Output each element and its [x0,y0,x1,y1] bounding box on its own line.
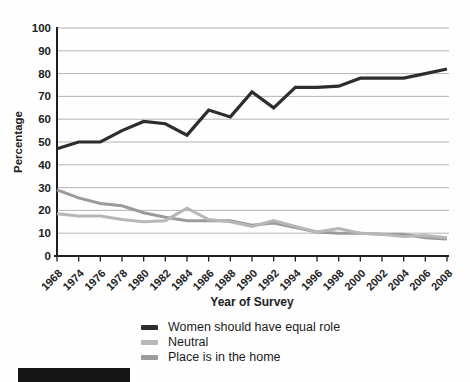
legend-item-home: Place is in the home [141,351,340,364]
series-line-women-should-have-equal-role [57,69,447,149]
y-tick-label-20: 20 [38,204,51,216]
line-chart: 1968197419761978198019821984198619881990… [0,0,470,318]
y-tick-label-90: 90 [38,45,51,57]
x-tick-label-2002: 2002 [364,267,390,293]
x-tick-label-2004: 2004 [385,266,411,292]
x-tick-label-1986: 1986 [190,267,216,293]
y-axis-title: Percentage [12,111,24,173]
y-tick-label-100: 100 [32,22,51,34]
legend-item-equal-role: Women should have equal role [141,321,340,334]
x-tick-label-1974: 1974 [60,266,86,292]
legend-swatch-equal-role [141,325,158,330]
y-tick-label-30: 30 [38,182,51,194]
x-tick-label-1980: 1980 [125,267,151,293]
legend-label-neutral: Neutral [168,336,208,349]
y-tick-label-50: 50 [38,136,51,148]
chart-legend: Women should have equal role Neutral Pla… [141,321,340,364]
y-tick-label-70: 70 [38,90,51,102]
x-tick-label-1976: 1976 [82,267,108,293]
legend-swatch-home [141,355,158,360]
axes [54,27,449,256]
x-axis-title: Year of Survey [210,295,294,309]
legend-swatch-neutral [141,340,158,345]
x-tick-label-2008: 2008 [429,267,455,293]
x-tick-label-1994: 1994 [277,266,303,292]
y-tick-label-10: 10 [38,227,51,239]
x-tick-label-1982: 1982 [147,267,173,293]
legend-label-home: Place is in the home [168,351,281,364]
y-tick-label-80: 80 [38,68,51,80]
figure-label-box [18,368,130,382]
x-tick-label-1984: 1984 [169,266,195,292]
x-tick-label-1998: 1998 [320,267,346,293]
y-tick-label-0: 0 [45,250,51,262]
x-tick-label-2000: 2000 [342,267,368,293]
y-tick-label-60: 60 [38,113,51,125]
x-tick-label-2006: 2006 [407,267,433,293]
line-chart-svg: 1968197419761978198019821984198619881990… [0,0,470,318]
x-tick-label-1978: 1978 [104,267,130,293]
x-tick-label-1988: 1988 [212,267,238,293]
x-tick-label-1990: 1990 [234,267,260,293]
legend-label-equal-role: Women should have equal role [168,321,340,334]
x-tick-label-1968: 1968 [39,267,65,293]
x-tick-label-1992: 1992 [255,267,281,293]
y-tick-label-40: 40 [38,159,51,171]
x-tick-label-1996: 1996 [299,267,325,293]
legend-item-neutral: Neutral [141,336,340,349]
series-line-place-is-in-the-home [57,190,447,239]
